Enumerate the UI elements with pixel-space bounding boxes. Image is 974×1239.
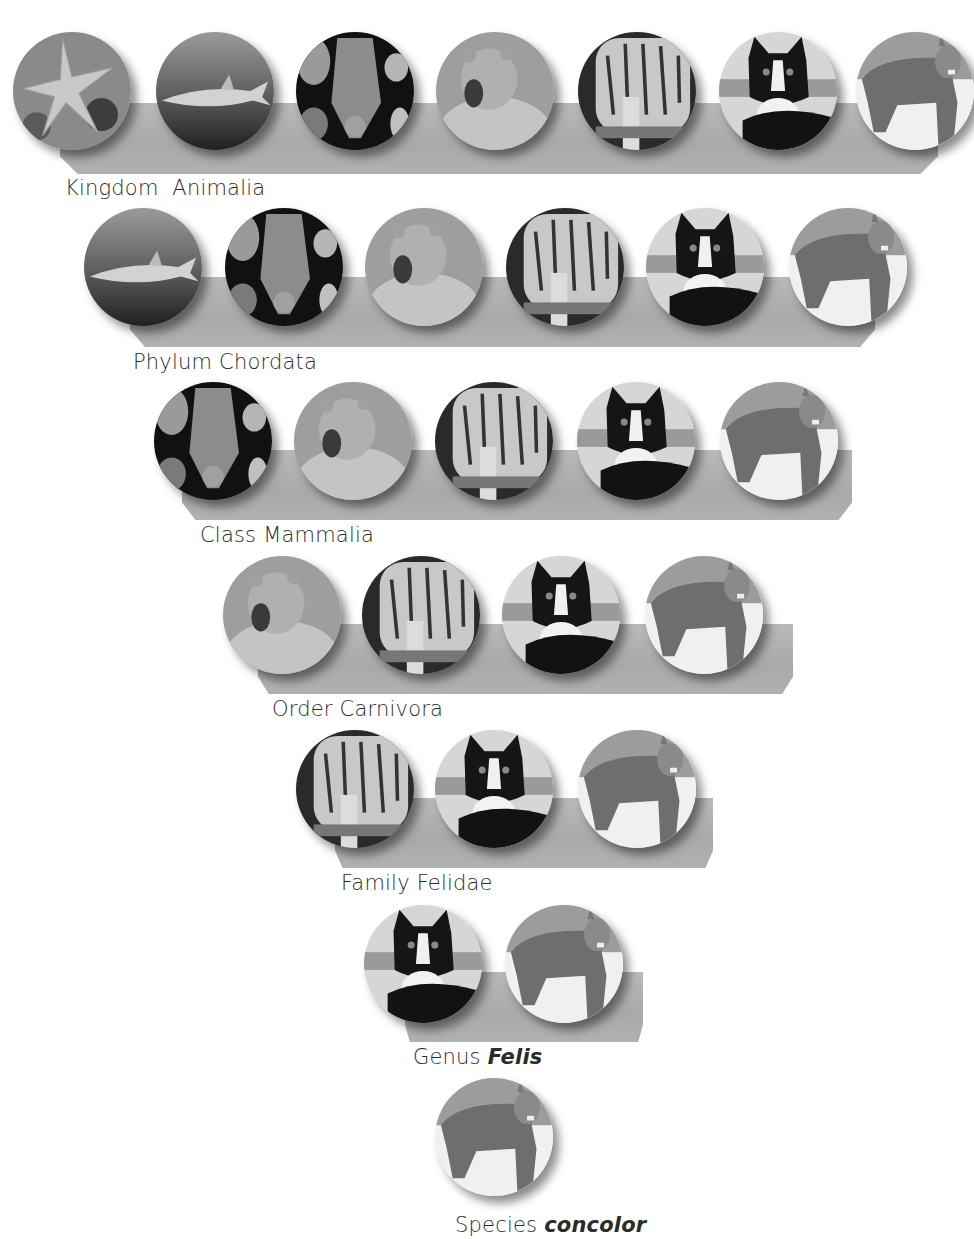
photo-cougar-species bbox=[435, 1078, 553, 1196]
bat-icon bbox=[225, 208, 343, 326]
sea-star-icon bbox=[13, 32, 131, 150]
domestic-cat-icon bbox=[577, 382, 695, 500]
cougar-icon bbox=[720, 382, 838, 500]
domestic-cat-icon bbox=[435, 730, 553, 848]
photo-cat-genus bbox=[364, 905, 482, 1023]
taxon-animalia: Animalia bbox=[172, 176, 265, 200]
shark-icon bbox=[156, 32, 274, 150]
taxon-carnivora: Carnivora bbox=[340, 697, 444, 721]
label-kingdom: Kingdom Animalia bbox=[65, 176, 265, 200]
rank-class: Class bbox=[200, 523, 256, 547]
photo-cat-class bbox=[577, 382, 695, 500]
photo-cat-kingdom bbox=[719, 32, 837, 150]
taxon-chordata: Chordata bbox=[219, 350, 317, 374]
rank-kingdom: Kingdom bbox=[65, 176, 159, 200]
photo-cougar-family bbox=[578, 730, 696, 848]
tiger-icon bbox=[578, 32, 696, 150]
label-phylum: Phylum Chordata bbox=[133, 350, 317, 374]
cougar-icon bbox=[856, 32, 974, 150]
label-order: Order Carnivora bbox=[272, 697, 443, 721]
photo-cat-order bbox=[502, 556, 620, 674]
cougar-icon bbox=[645, 556, 763, 674]
photo-tiger-class bbox=[435, 382, 553, 500]
bat-icon bbox=[296, 32, 414, 150]
tiger-icon bbox=[296, 730, 414, 848]
tiger-icon bbox=[435, 382, 553, 500]
tiger-icon bbox=[362, 556, 480, 674]
domestic-cat-icon bbox=[646, 208, 764, 326]
rank-phylum: Phylum bbox=[133, 350, 212, 374]
taxon-mammalia: Mammalia bbox=[263, 523, 374, 547]
photo-cougar-genus bbox=[505, 905, 623, 1023]
photo-tiger-family bbox=[296, 730, 414, 848]
bear-icon bbox=[223, 556, 341, 674]
cougar-icon bbox=[789, 208, 907, 326]
photo-sea-star-kingdom bbox=[13, 32, 131, 150]
taxon-concolor: concolor bbox=[544, 1213, 646, 1237]
photo-bear-order bbox=[223, 556, 341, 674]
cougar-icon bbox=[578, 730, 696, 848]
bear-icon bbox=[294, 382, 412, 500]
photo-cougar-phylum bbox=[789, 208, 907, 326]
label-family: Family Felidae bbox=[341, 871, 493, 895]
label-species: Species concolor bbox=[455, 1213, 646, 1237]
photo-shark-phylum bbox=[84, 208, 202, 326]
label-class: Class Mammalia bbox=[200, 523, 374, 547]
photo-bat-kingdom bbox=[296, 32, 414, 150]
taxon-felidae: Felidae bbox=[417, 871, 493, 895]
photo-shark-kingdom bbox=[156, 32, 274, 150]
domestic-cat-icon bbox=[502, 556, 620, 674]
tiger-icon bbox=[506, 208, 624, 326]
photo-tiger-order bbox=[362, 556, 480, 674]
rank-genus: Genus bbox=[413, 1045, 481, 1069]
photo-cat-family bbox=[435, 730, 553, 848]
bear-icon bbox=[365, 208, 483, 326]
rank-species: Species bbox=[455, 1213, 537, 1237]
photo-bear-phylum bbox=[365, 208, 483, 326]
label-genus: Genus Felis bbox=[413, 1045, 543, 1069]
photo-tiger-kingdom bbox=[578, 32, 696, 150]
photo-cougar-kingdom bbox=[856, 32, 974, 150]
domestic-cat-icon bbox=[364, 905, 482, 1023]
bat-icon bbox=[154, 382, 272, 500]
photo-tiger-phylum bbox=[506, 208, 624, 326]
shark-icon bbox=[84, 208, 202, 326]
cougar-icon bbox=[505, 905, 623, 1023]
domestic-cat-icon bbox=[719, 32, 837, 150]
photo-bat-class bbox=[154, 382, 272, 500]
rank-order: Order bbox=[272, 697, 333, 721]
photo-bear-class bbox=[294, 382, 412, 500]
photo-cougar-class bbox=[720, 382, 838, 500]
photo-cat-phylum bbox=[646, 208, 764, 326]
cougar-icon bbox=[435, 1078, 553, 1196]
photo-bat-phylum bbox=[225, 208, 343, 326]
taxon-felis: Felis bbox=[488, 1045, 543, 1069]
photo-cougar-order bbox=[645, 556, 763, 674]
rank-family: Family bbox=[341, 871, 410, 895]
bear-icon bbox=[436, 32, 554, 150]
photo-bear-kingdom bbox=[436, 32, 554, 150]
